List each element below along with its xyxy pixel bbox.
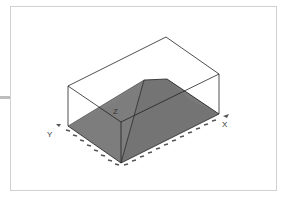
x-axis-label: X: [222, 120, 228, 129]
y-axis-label: Y: [47, 130, 53, 139]
z-axis-label: Z: [113, 107, 118, 116]
surface-3d-plot: Z Y X: [0, 0, 290, 198]
surface: [68, 79, 219, 163]
